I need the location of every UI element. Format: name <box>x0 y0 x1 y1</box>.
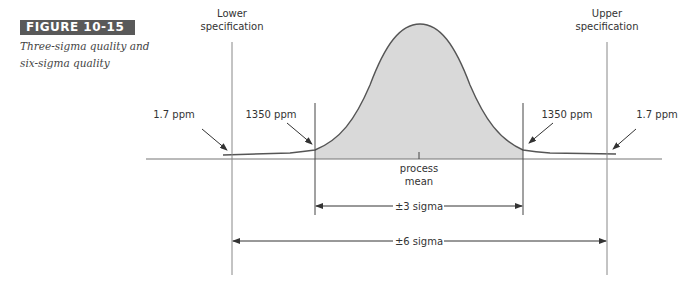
six-sigma-label: ±6 sigma <box>395 236 443 247</box>
left-outer-ppm-label: 1.7 ppm <box>153 109 195 120</box>
lower-spec-label: Lower <box>217 8 248 19</box>
right-inner-ppm-label: 1350 ppm <box>541 109 592 120</box>
left-outer-arrow <box>202 129 227 150</box>
left-inner-arrow <box>287 123 312 144</box>
left-inner-ppm-label: 1350 ppm <box>245 109 296 120</box>
shaded-area <box>315 24 523 159</box>
right-outer-arrow <box>613 129 636 149</box>
mean-label: process <box>400 163 438 174</box>
right-outer-ppm-label: 1.7 ppm <box>636 109 678 120</box>
lower-spec-label-2: specification <box>200 21 263 32</box>
upper-spec-label: Upper <box>592 8 623 19</box>
sigma-diagram: Lower specification Upper specification … <box>0 0 689 293</box>
upper-spec-label-2: specification <box>575 21 638 32</box>
mean-label-2: mean <box>405 176 433 187</box>
three-sigma-label: ±3 sigma <box>395 201 443 212</box>
right-inner-arrow <box>529 123 553 143</box>
